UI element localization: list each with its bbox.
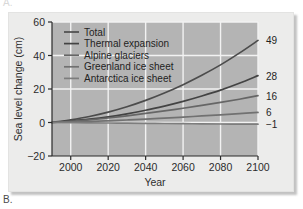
- x-tick-label: 2080: [209, 161, 233, 173]
- legend-label-total: Total: [84, 27, 105, 38]
- y-axis-tick-labels: −200204060: [27, 16, 45, 162]
- y-tick-label: 40: [33, 50, 45, 62]
- sea-level-change-line-chart: 200020202040206020802100 −200204060 4928…: [8, 12, 294, 192]
- y-tick-label: 60: [33, 16, 45, 28]
- x-tick-label: 2020: [97, 161, 121, 173]
- end-label-thermal-expansion: 28: [266, 71, 278, 82]
- y-axis-title: Sea level change (cm): [12, 37, 24, 141]
- legend-label-thermal-expansion: Thermal expansion: [84, 38, 169, 49]
- y-tick-label: 0: [39, 117, 45, 129]
- panel-label-b: B.: [3, 194, 13, 205]
- x-tick-label: 2100: [246, 161, 270, 173]
- y-tick-label: 20: [33, 83, 45, 95]
- x-tick-label: 2040: [134, 161, 158, 173]
- end-label-total: 49: [266, 35, 278, 46]
- series-end-labels: 4928166−1: [266, 35, 278, 130]
- legend-label-antarctica-ice-sheet: Antarctica ice sheet: [84, 73, 171, 84]
- x-axis-tick-labels: 200020202040206020802100: [59, 161, 270, 173]
- legend-label-alpine-glaciers: Alpine glaciers: [84, 50, 149, 61]
- end-label-alpine-glaciers: 16: [266, 91, 278, 102]
- end-label-greenland-ice-sheet: 6: [266, 107, 272, 118]
- panel-label-a: A.: [3, 0, 13, 8]
- legend-label-greenland-ice-sheet: Greenland ice sheet: [84, 61, 174, 72]
- x-axis-title: Year: [144, 176, 166, 188]
- x-tick-label: 2060: [171, 161, 195, 173]
- figure-container: A. 200020202040206020802100 −200204060 4…: [0, 0, 303, 209]
- x-tick-label: 2000: [59, 161, 83, 173]
- y-tick-label: −20: [27, 150, 45, 162]
- end-label-antarctica-ice-sheet: −1: [266, 119, 278, 130]
